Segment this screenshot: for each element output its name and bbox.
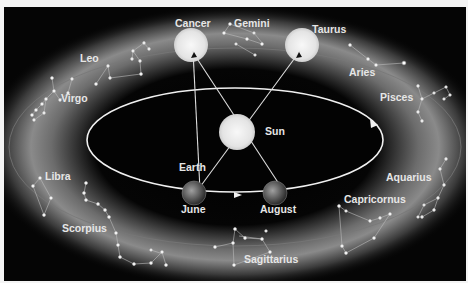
zodiac-diagram: Cancer Gemini Taurus Aries Pisces Sun Ea… [4,7,466,281]
diagram-canvas: Cancer Gemini Taurus Aries Pisces Sun Ea… [4,7,466,281]
earth-june [182,181,206,205]
label-gemini: Gemini [234,17,270,29]
earth-august [263,181,287,205]
label-cancer: Cancer [175,17,211,29]
label-aries: Aries [349,66,375,78]
label-sun: Sun [265,125,285,137]
label-leo: Leo [80,52,99,64]
label-sagittarius: Sagittarius [244,253,298,265]
label-virgo: Virgo [61,92,88,104]
label-june: June [181,203,206,215]
sun-image-cancer [174,28,208,62]
label-aquarius: Aquarius [386,171,432,183]
label-august: August [260,203,297,215]
label-taurus: Taurus [312,23,346,35]
sun [219,114,255,150]
label-pisces: Pisces [380,91,413,103]
label-capricornus: Capricornus [344,193,406,205]
label-libra: Libra [45,170,71,182]
label-scorpius: Scorpius [62,222,107,234]
label-earth: Earth [179,161,206,173]
